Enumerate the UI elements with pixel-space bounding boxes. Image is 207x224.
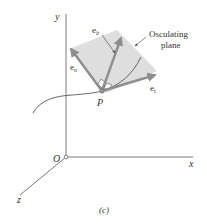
binormal-vector-label: eb [92,25,99,36]
x-axis-label: x [188,158,194,169]
z-axis-label: z [16,194,21,205]
y-axis-label: y [54,11,60,22]
figure-caption: (c) [99,205,109,215]
origin-marker [64,155,68,159]
osculating-plane-diagram: y x z O P en eb et Osculating plane (c) [0,0,207,224]
point-p-label: P [96,97,103,108]
osculating-plane-label-line2: plane [161,40,181,50]
tangent-vector-label: et [150,83,156,94]
point-p-marker [100,89,104,93]
osculating-plane-label-line1: Osculating [149,29,188,39]
normal-vector-label: en [70,62,77,73]
plane-leader-arrow [135,37,146,46]
origin-label: O [53,153,60,164]
